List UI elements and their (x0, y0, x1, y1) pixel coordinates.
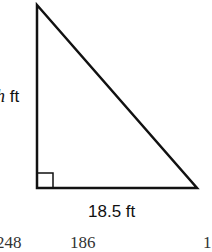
answer-choice-cutoff-2: 186 (70, 233, 96, 252)
right-angle-marker-icon (37, 173, 53, 188)
height-label: h ft (0, 86, 19, 107)
answer-choice-cutoff-1: 248 (0, 233, 22, 252)
answer-choice-cutoff-3: 1 (203, 233, 212, 252)
height-unit: ft (10, 87, 19, 106)
height-variable: h (0, 86, 5, 106)
triangle-outline (37, 5, 197, 188)
base-label: 18.5 ft (88, 202, 135, 222)
